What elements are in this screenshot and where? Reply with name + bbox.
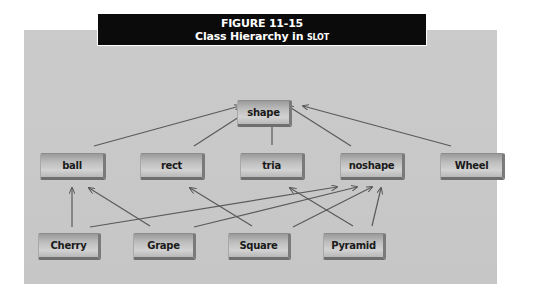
edge-grape-ball bbox=[89, 188, 150, 226]
node-ball: ball bbox=[40, 153, 106, 180]
node-rect: rect bbox=[140, 153, 205, 180]
edge-pyramid-tria bbox=[290, 188, 353, 226]
edge-pyramid-noshape bbox=[372, 188, 381, 226]
figure-title: FIGURE 11-15 Class Hierarchy in SLOT bbox=[97, 13, 427, 46]
figure-caption: Class Hierarchy in SLOT bbox=[98, 30, 426, 44]
node-tria: tria bbox=[240, 153, 305, 180]
node-wheel: Wheel bbox=[440, 153, 505, 180]
edge-wheel-shape bbox=[303, 106, 451, 146]
node-noshape: noshape bbox=[340, 153, 405, 180]
edge-cherry-noshape bbox=[90, 187, 337, 227]
edge-ball-shape bbox=[94, 106, 240, 146]
node-pyramid: Pyramid bbox=[323, 233, 386, 260]
figure-number: FIGURE 11-15 bbox=[98, 17, 426, 30]
node-shape: shape bbox=[237, 100, 292, 127]
node-square: Square bbox=[228, 233, 291, 260]
caption-smallcaps: SLOT bbox=[307, 33, 329, 42]
node-grape: Grape bbox=[133, 233, 196, 260]
node-cherry: Cherry bbox=[38, 233, 101, 260]
edge-noshape-shape bbox=[288, 106, 351, 146]
